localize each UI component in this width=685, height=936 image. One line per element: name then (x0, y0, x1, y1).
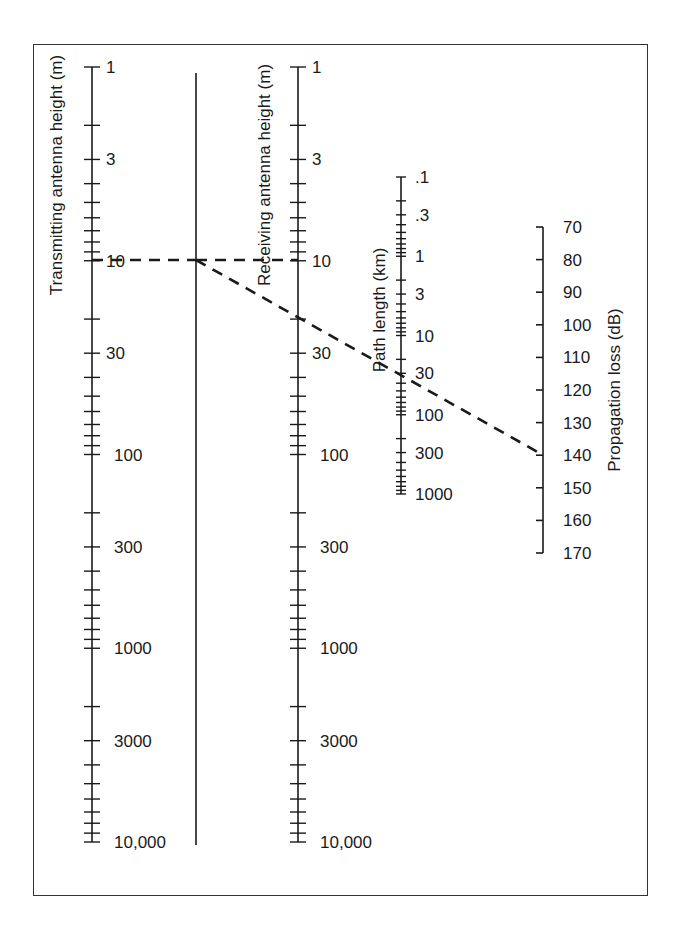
tick-label: 150 (563, 479, 591, 498)
tick-label: 1 (106, 58, 115, 77)
tick-label: 170 (563, 544, 591, 563)
tick-label: 3000 (320, 732, 358, 751)
tick-label: 100 (563, 316, 591, 335)
tick-label: 30 (415, 364, 434, 383)
tick-label: 80 (563, 251, 582, 270)
tick-label: 1000 (320, 639, 358, 658)
tick-label: 110 (563, 348, 590, 367)
axis-title: Propagation loss (dB) (605, 308, 624, 471)
tick-label: 3 (415, 285, 424, 304)
tick-label: 10 (415, 327, 434, 346)
tick-label: 130 (563, 414, 591, 433)
tick-label: 1000 (415, 485, 453, 504)
tick-label: 1 (312, 58, 321, 77)
tick-label: 10,000 (114, 833, 166, 852)
axis-tx: 1310301003001000300010,000Transmitting a… (47, 55, 166, 852)
tick-label: 120 (563, 381, 591, 400)
tick-label: 10 (312, 252, 331, 271)
tick-label: .3 (415, 206, 429, 225)
tick-label: 3 (312, 150, 321, 169)
tick-label: 100 (415, 406, 443, 425)
tick-label: 90 (563, 283, 582, 302)
axis-title: Receiving antenna height (m) (255, 64, 274, 286)
axis-loss: 708090100110120130140150160170Propagatio… (536, 218, 624, 563)
axis-title: Path length (km) (370, 248, 389, 373)
axes-layer: 1310301003001000300010,000Transmitting a… (47, 55, 624, 852)
tick-label: 70 (563, 218, 582, 237)
tick-label: .1 (415, 168, 429, 187)
tick-label: 10,000 (320, 833, 372, 852)
tick-label: 140 (563, 446, 591, 465)
tick-label: 100 (320, 446, 348, 465)
tick-label: 1 (415, 247, 424, 266)
axis-path: .1.31310301003001000Path length (km) (370, 168, 453, 504)
tick-label: 300 (415, 444, 443, 463)
tick-label: 3 (106, 150, 115, 169)
tick-label: 3000 (114, 732, 152, 751)
tick-label: 30 (106, 344, 125, 363)
tick-label: 300 (320, 538, 348, 557)
axis-rx: 1310301003001000300010,000Receiving ante… (255, 58, 372, 852)
tick-label: 300 (114, 538, 142, 557)
axis-title: Transmitting antenna height (m) (47, 55, 66, 295)
tick-label: 1000 (114, 639, 152, 658)
tick-label: 160 (563, 511, 591, 530)
tick-label: 30 (312, 344, 331, 363)
tick-label: 100 (114, 446, 142, 465)
nomogram-chart: 1310301003001000300010,000Transmitting a… (0, 0, 685, 936)
